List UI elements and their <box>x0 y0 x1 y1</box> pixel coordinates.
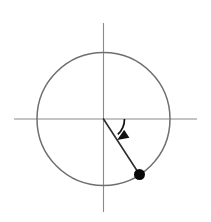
unit-circle-figure <box>0 0 211 222</box>
terminal-point-marker <box>134 169 145 180</box>
figure-canvas <box>0 0 211 222</box>
figure-background <box>0 0 211 222</box>
